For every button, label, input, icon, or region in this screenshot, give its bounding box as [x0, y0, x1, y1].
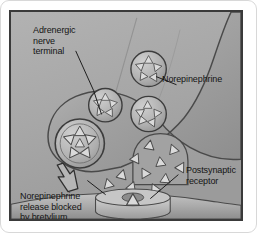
synaptic-vesicle	[131, 96, 166, 131]
label-postsynaptic-receptor: Postsynaptic receptor	[186, 165, 236, 186]
synaptic-vesicle	[131, 51, 166, 86]
postsynaptic-receptor	[96, 189, 171, 219]
figure-card: Adrenergic nerve terminal Norepinephrine…	[0, 0, 257, 233]
synaptic-vesicle	[55, 119, 104, 168]
label-norepinephrine: Norepinephrine	[162, 74, 222, 85]
figure-frame: Adrenergic nerve terminal Norepinephrine…	[9, 10, 243, 221]
label-adrenergic-nerve-terminal: Adrenergic nerve terminal	[33, 25, 76, 57]
label-release-blocked-by-bretylium: Norepinephrine release blocked by bretyl…	[20, 191, 82, 221]
synaptic-vesicle	[89, 89, 122, 122]
